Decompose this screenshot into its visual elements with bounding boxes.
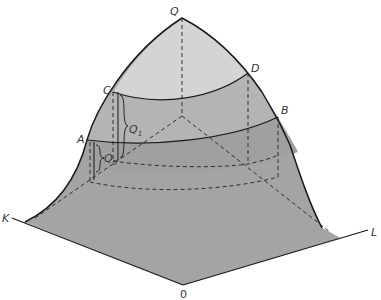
label-k: K (2, 212, 10, 225)
label-q-peak: Q (170, 5, 179, 18)
label-a: A (76, 133, 85, 146)
label-b: B (281, 104, 289, 117)
label-origin: 0 (180, 288, 187, 300)
label-d: D (251, 62, 259, 75)
production-surface-diagram: Q C D A B K L 0 Q1 Q0 (0, 0, 381, 300)
label-l: L (371, 226, 377, 239)
label-c: C (103, 84, 111, 97)
